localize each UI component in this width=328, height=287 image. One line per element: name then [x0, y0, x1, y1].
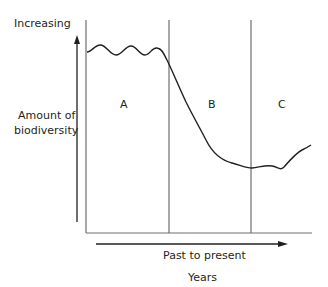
x-axis-arrow-label: Past to present	[163, 249, 246, 262]
x-axis-label: Years	[188, 271, 217, 284]
region-label-b: B	[208, 98, 216, 111]
y-arrowhead-icon	[74, 35, 80, 44]
region-label-a: A	[120, 98, 128, 111]
y-axis-label-line2: biodiversity	[14, 124, 78, 137]
x-arrowhead-icon	[278, 241, 288, 247]
y-axis-label-line1: Amount of	[18, 109, 75, 122]
region-label-c: C	[278, 98, 286, 111]
biodiversity-diagram	[0, 0, 328, 287]
y-axis-top-label: Increasing	[14, 17, 71, 30]
